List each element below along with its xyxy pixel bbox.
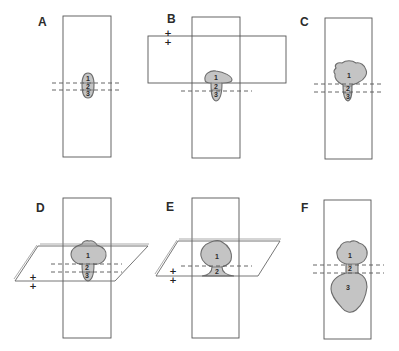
plus-marker: + [169,275,177,285]
region-label-3: 3 [346,93,350,100]
region-label-2: 2 [346,85,350,92]
region-label-1: 1 [348,252,352,259]
region-label-3: 3 [85,272,89,279]
panel-e: E 1 2 + + [155,198,281,338]
panel-label-b: B [167,12,176,26]
region-label-2: 2 [348,265,352,272]
region-label-2: 2 [214,83,218,90]
panel-label-c: C [300,15,309,29]
region-label-3: 3 [346,284,350,291]
region-label-2: 2 [85,264,89,271]
region-label-3: 3 [86,90,90,97]
region-label-2: 2 [215,268,219,275]
region-label-1: 1 [347,72,351,79]
panel-b: B + + 1 2 3 [148,12,286,158]
panel-c: C 1 2 3 [300,15,384,159]
region-label-3: 3 [214,91,218,98]
plus-marker: + [29,281,37,291]
panel-f: F 1 2 3 [301,200,384,339]
plus-marker: + [164,37,172,47]
panel-label-a: A [38,15,47,29]
figure-canvas: A 1 2 3 B + + 1 2 3 C 1 2 3 [0,0,399,351]
region-label-1: 1 [215,253,219,260]
panel-label-f: F [301,201,308,215]
region-label-1: 1 [214,74,218,81]
shape-c [334,61,367,101]
panel-label-e: E [166,200,174,214]
panel-label-d: D [36,201,45,215]
shape-b [205,71,232,101]
panel-d: D 1 2 3 + + [14,198,149,338]
region-label-2: 2 [86,83,90,90]
panel-a: A 1 2 3 [38,15,122,157]
region-label-1: 1 [86,75,90,82]
region-label-1: 1 [86,252,90,259]
